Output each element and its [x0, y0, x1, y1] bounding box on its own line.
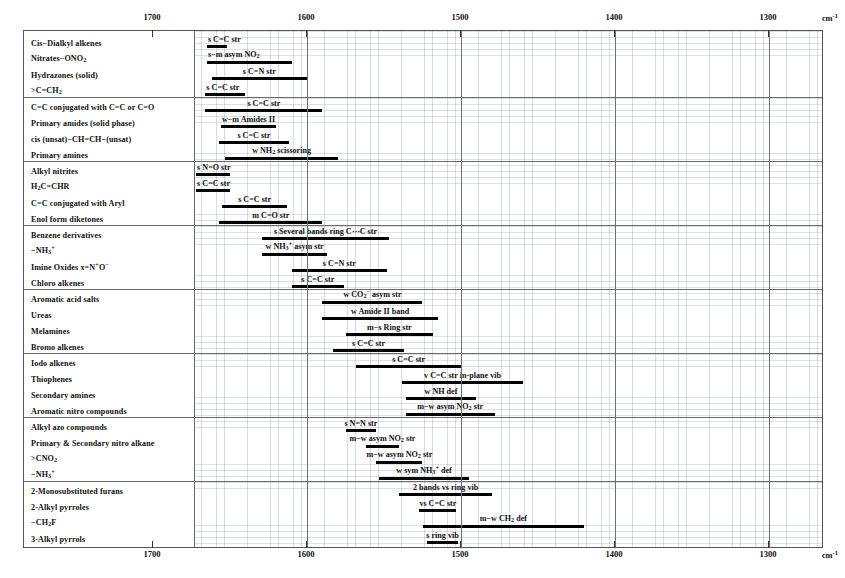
axis-tick-label-1400: 1400 [605, 549, 622, 559]
row-label: Thiophenes [31, 375, 72, 384]
axis-tick-label-1500: 1500 [451, 12, 468, 22]
band-annotation: w Amide II band [351, 307, 409, 316]
band-bar [212, 77, 307, 80]
table-row: 3-Alkyl pyrrols [24, 529, 194, 545]
band-annotation: m C=O str [252, 211, 289, 220]
band-bar [196, 173, 230, 176]
table-row: Ureas [24, 305, 194, 321]
band-bar [406, 397, 477, 400]
band-range: s C=C str [205, 97, 322, 113]
row-label: Cis−Dialkyl alkenes [31, 39, 102, 48]
band-annotation: s C=C str [206, 83, 239, 92]
band-range: s C=N str [212, 65, 307, 81]
band-annotation: s C=C str [247, 99, 280, 108]
band-range: w Amide II band [322, 305, 438, 321]
band-annotation: 2 bands vs ring vib [413, 483, 478, 492]
axis-tick-mark-1400 [614, 541, 615, 548]
band-range: s C=C str [292, 273, 344, 289]
band-range: vs C=C str [419, 497, 456, 513]
band-annotation: s N=N str [344, 419, 377, 428]
group-separator [24, 97, 822, 98]
axis-tick-mark-1600 [306, 541, 307, 548]
band-range: m−s Ring str [346, 321, 434, 337]
band-range: s C=C str [333, 337, 404, 353]
table-row: −NH3+ [24, 465, 194, 481]
row-label: Alkyl azo compounds [31, 423, 107, 432]
table-row: Nitrates−ONO2 [24, 49, 194, 65]
table-row: C=C conjugated with Aryl [24, 193, 194, 209]
band-range: s N=O str [196, 161, 230, 177]
band-range: s ring vib [427, 529, 458, 545]
band-annotation: s C=C str [208, 35, 241, 44]
band-range: w NH def [406, 385, 477, 401]
row-label: C=C conjugated with C=C or C=O [31, 103, 154, 112]
plot-area: Cis−Dialkyl alkenesNitrates−ONO2Hydrazon… [23, 30, 823, 548]
table-row: Enol form diketones [24, 209, 194, 225]
table-row: Primary amines [24, 145, 194, 161]
table-row: Secondary amines [24, 385, 194, 401]
axis-tick-label-1500: 1500 [451, 549, 468, 559]
axis-tick-mark-1700 [152, 30, 153, 37]
table-row: −NH3+ [24, 241, 194, 257]
band-bar [205, 93, 245, 96]
band-annotation: m−s Ring str [367, 323, 412, 332]
band-annotation: s C=C str [237, 131, 270, 140]
band-bar [292, 285, 344, 288]
band-bar [262, 253, 327, 256]
band-range: s C=C str [207, 33, 227, 49]
row-label: Benzene derivatives [31, 231, 101, 240]
band-range: v C=C str in-plane vib [402, 369, 522, 385]
band-annotation: s C=C str [392, 355, 425, 364]
row-label: Primary amides (solid phase) [31, 119, 135, 128]
row-label: Imine Oxides x=N+O− [31, 260, 109, 272]
axis-tick-label-1700: 1700 [143, 12, 160, 22]
band-bar [292, 269, 387, 272]
axis-unit-label: cm-1 [822, 549, 838, 560]
band-annotation: m−w asym NO2 str [349, 434, 415, 444]
table-row: Benzene derivatives [24, 225, 194, 241]
band-range: w sym NH3+ def [379, 465, 468, 481]
row-label: >C=CH2 [31, 86, 62, 96]
row-label: 2-Monosubstituted furans [31, 487, 123, 496]
table-row: H2C=CHR [24, 177, 194, 193]
band-bar [221, 125, 276, 128]
band-annotation: vs C=C str [419, 499, 456, 508]
band-bar [356, 365, 461, 368]
table-row: Hydrazones (solid) [24, 65, 194, 81]
band-bar [333, 349, 404, 352]
band-annotation: s Several bands ring C⋯C str [274, 227, 377, 236]
axis-top: 17001600150014001300cm-1 [23, 12, 823, 26]
band-range: s C=C str [205, 81, 245, 97]
band-annotation: w NH2 scissoring [252, 146, 311, 156]
band-range: s C=C str [222, 193, 287, 209]
band-annotation: w−m Amides II [222, 115, 275, 124]
band-bar [427, 541, 458, 544]
axis-tick-mark-1500 [460, 541, 461, 548]
band-bar [423, 525, 585, 528]
table-row: Cis−Dialkyl alkenes [24, 33, 194, 49]
band-bar [399, 493, 491, 496]
axis-tick-mark-1400 [614, 30, 615, 37]
band-annotation: s ring vib [426, 531, 458, 540]
row-label: 3-Alkyl pyrrols [31, 535, 85, 544]
band-range: m−w asym NO2 str [406, 401, 495, 417]
band-annotation: v C=C str in-plane vib [424, 371, 501, 380]
row-label: Enol form diketones [31, 215, 103, 224]
row-label: Aromatic nitro compounds [31, 407, 127, 416]
table-row: 2-Monosubstituted furans [24, 481, 194, 497]
row-label: Alkyl nitrites [31, 167, 78, 176]
band-bar [419, 509, 456, 512]
band-range: w NH3+ asym str [262, 241, 327, 257]
band-bar [225, 157, 337, 160]
band-bar [402, 381, 522, 384]
band-bar [219, 141, 288, 144]
table-row: Alkyl nitrites [24, 161, 194, 177]
table-row: Aromatic nitro compounds [24, 401, 194, 417]
table-row: Melamines [24, 321, 194, 337]
row-label: >CNO2 [31, 454, 57, 464]
axis-tick-label-1400: 1400 [605, 12, 622, 22]
band-range: m−w CH2 def [423, 513, 585, 529]
table-row: Iodo alkenes [24, 353, 194, 369]
axis-tick-label-1300: 1300 [759, 12, 776, 22]
table-row: >C=CH2 [24, 81, 194, 97]
